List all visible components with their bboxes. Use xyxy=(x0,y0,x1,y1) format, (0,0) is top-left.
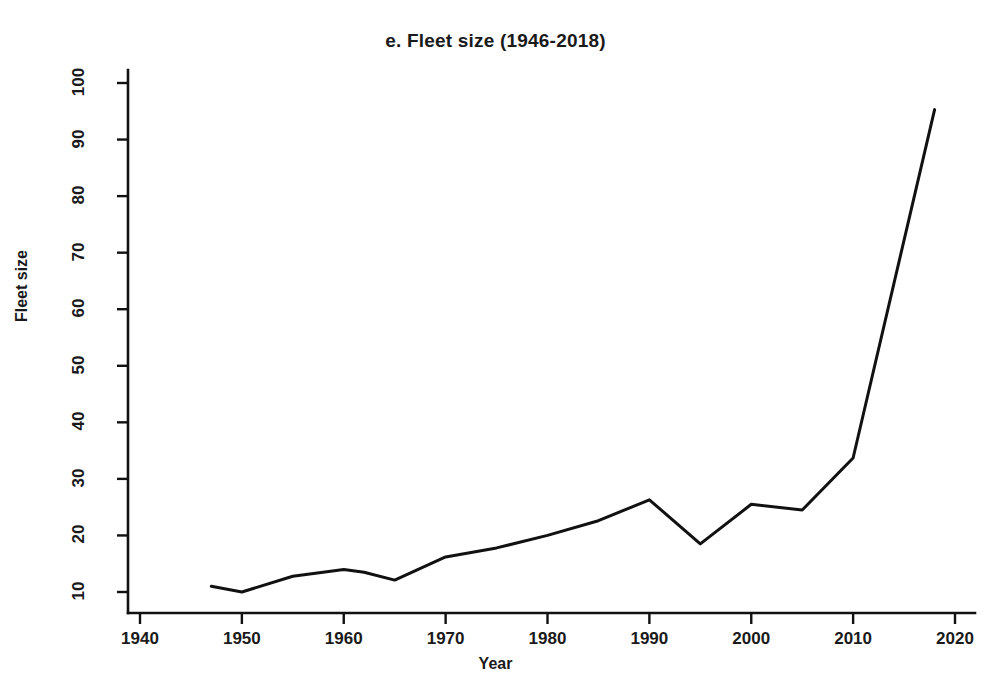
figure: e. Fleet size (1946-2018) Fleet size 102… xyxy=(0,0,991,697)
y-tick-label: 80 xyxy=(69,168,89,222)
y-tick-label: 10 xyxy=(69,564,89,618)
y-tick-label: 30 xyxy=(69,451,89,505)
y-tick-label: 70 xyxy=(69,225,89,279)
x-tick-label: 1940 xyxy=(105,629,175,649)
x-tick-label: 1990 xyxy=(614,629,684,649)
data-series-line xyxy=(211,110,934,592)
x-tick-label: 1970 xyxy=(411,629,481,649)
y-tick-label: 100 xyxy=(69,55,89,109)
y-tick-label: 40 xyxy=(69,394,89,448)
x-tick-label: 2020 xyxy=(920,629,990,649)
y-tick-label: 20 xyxy=(69,507,89,561)
x-axis-title: Year xyxy=(0,655,991,673)
x-tick-label: 2000 xyxy=(716,629,786,649)
plot-area xyxy=(0,0,991,697)
x-tick-label: 1980 xyxy=(513,629,583,649)
axis-ticks xyxy=(117,83,955,624)
y-tick-label: 60 xyxy=(69,281,89,335)
y-tick-label: 50 xyxy=(69,338,89,392)
y-tick-label: 90 xyxy=(69,112,89,166)
x-tick-label: 2010 xyxy=(818,629,888,649)
x-tick-label: 1950 xyxy=(207,629,277,649)
x-tick-label: 1960 xyxy=(309,629,379,649)
